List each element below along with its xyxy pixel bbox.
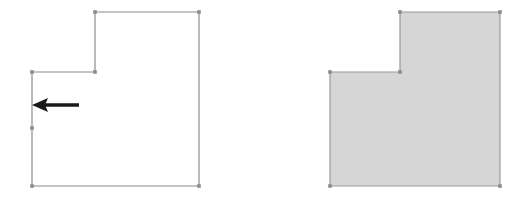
wireframe-figure[interactable] — [30, 10, 201, 188]
vertex-marker[interactable] — [398, 10, 402, 14]
vertex-marker[interactable] — [197, 184, 201, 188]
vertex-marker[interactable] — [30, 70, 34, 74]
drawing-canvas — [0, 0, 518, 201]
vertex-marker[interactable] — [398, 70, 402, 74]
vertex-marker[interactable] — [93, 10, 97, 14]
vertex-marker[interactable] — [498, 10, 502, 14]
figure-svg-canvas — [0, 0, 518, 201]
wireframe-vertex-markers — [30, 10, 201, 188]
edge-midpoint-marker[interactable] — [30, 126, 34, 130]
vertex-marker[interactable] — [328, 184, 332, 188]
vertex-marker[interactable] — [93, 70, 97, 74]
vertex-marker[interactable] — [498, 184, 502, 188]
polygon-filled-path[interactable] — [330, 12, 500, 186]
solid-figure[interactable] — [328, 10, 502, 188]
vertex-marker[interactable] — [30, 184, 34, 188]
vertex-marker[interactable] — [328, 70, 332, 74]
vertex-marker[interactable] — [197, 10, 201, 14]
direction-arrow-annotation[interactable] — [32, 98, 79, 112]
polygon-outline-path[interactable] — [32, 12, 199, 186]
